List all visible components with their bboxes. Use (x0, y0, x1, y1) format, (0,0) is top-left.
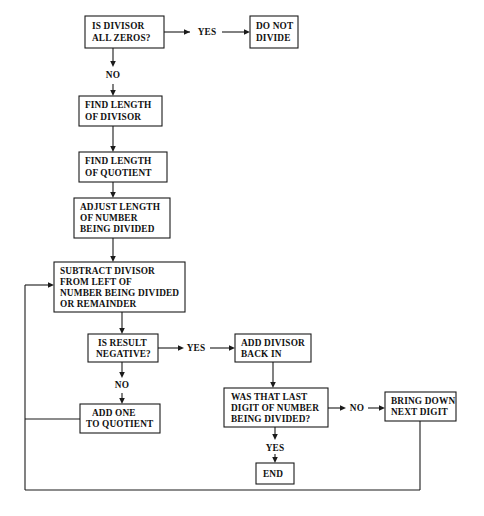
node-subtract-divisor[interactable]: SUBTRACT DIVISOR FROM LEFT OF NUMBER BEI… (54, 262, 185, 312)
node-subtract-divisor-line3: NUMBER BEING DIVIDED (60, 288, 179, 298)
node-was-that-last-digit-line3: BEING DIVIDED? (231, 414, 311, 424)
edge-label-no-top: NO (106, 70, 120, 80)
node-is-divisor-all-zeros-line1: IS DIVISOR (92, 21, 145, 31)
edge-label-no-last-digit: NO (350, 403, 364, 413)
node-bring-down-next-digit[interactable]: BRING DOWN NEXT DIGIT (385, 392, 456, 421)
node-add-one-to-quotient-line2: TO QUOTIENT (86, 419, 154, 429)
node-find-length-of-divisor-line2: OF DIVISOR (85, 112, 141, 122)
node-do-not-divide-line1: DO NOT (256, 21, 294, 31)
node-is-result-negative-line1: IS RESULT (98, 338, 147, 348)
node-was-that-last-digit-line2: DIGIT OF NUMBER (231, 403, 319, 413)
flowchart-canvas: IS DIVISOR ALL ZEROS? DO NOT DIVIDE FIND… (0, 0, 484, 516)
edge-add-divisor-back-to-was-that-last (270, 362, 276, 388)
node-was-that-last-digit-line1: WAS THAT LAST (231, 392, 308, 402)
edge-label-yes-last-digit: YES (266, 443, 285, 453)
node-adjust-length-line3: BEING DIVIDED (80, 224, 155, 234)
flowchart-diagram: IS DIVISOR ALL ZEROS? DO NOT DIVIDE FIND… (0, 0, 484, 516)
node-add-one-to-quotient-line1: ADD ONE (92, 408, 136, 418)
node-subtract-divisor-line4: OR REMAINDER (60, 299, 137, 309)
node-find-length-of-quotient-line1: FIND LENGTH (85, 156, 152, 166)
node-do-not-divide-line2: DIVIDE (256, 33, 290, 43)
node-adjust-length[interactable]: ADJUST LENGTH OF NUMBER BEING DIVIDED (74, 198, 170, 238)
node-end-label: END (263, 469, 283, 479)
node-end[interactable]: END (256, 463, 294, 484)
node-is-result-negative-line2: NEGATIVE? (96, 349, 151, 359)
edge-label-yes-top: YES (198, 27, 217, 37)
node-is-divisor-all-zeros[interactable]: IS DIVISOR ALL ZEROS? (85, 16, 164, 48)
node-adjust-length-line1: ADJUST LENGTH (80, 202, 161, 212)
node-add-divisor-back-in-line1: ADD DIVISOR (241, 338, 305, 348)
edge-label-no-negative: NO (115, 380, 129, 390)
node-bring-down-next-digit-line1: BRING DOWN (391, 396, 455, 406)
node-find-length-of-quotient[interactable]: FIND LENGTH OF QUOTIENT (79, 152, 167, 182)
node-bring-down-next-digit-line2: NEXT DIGIT (391, 407, 449, 417)
node-was-that-last-digit[interactable]: WAS THAT LAST DIGIT OF NUMBER BEING DIVI… (224, 388, 328, 427)
node-adjust-length-line2: OF NUMBER (80, 213, 138, 223)
node-subtract-divisor-line2: FROM LEFT OF (60, 277, 132, 287)
edge-find-quotient-to-adjust-length (110, 182, 116, 198)
node-add-one-to-quotient[interactable]: ADD ONE TO QUOTIENT (80, 404, 160, 433)
edge-find-divisor-to-find-quotient (110, 126, 116, 152)
node-add-divisor-back-in-line2: BACK IN (241, 349, 282, 359)
edge-label-yes-negative: YES (187, 343, 206, 353)
node-find-length-of-divisor-line1: FIND LENGTH (85, 100, 152, 110)
node-add-divisor-back-in[interactable]: ADD DIVISOR BACK IN (235, 334, 311, 362)
edge-adjust-length-to-subtract (110, 238, 116, 262)
node-find-length-of-divisor[interactable]: FIND LENGTH OF DIVISOR (79, 96, 162, 126)
edge-subtract-to-is-result-negative (119, 312, 125, 334)
node-is-result-negative[interactable]: IS RESULT NEGATIVE? (88, 334, 158, 362)
node-find-length-of-quotient-line2: OF QUOTIENT (85, 168, 152, 178)
node-do-not-divide[interactable]: DO NOT DIVIDE (250, 16, 298, 48)
node-is-divisor-all-zeros-line2: ALL ZEROS? (92, 33, 151, 43)
node-subtract-divisor-line1: SUBTRACT DIVISOR (60, 266, 155, 276)
